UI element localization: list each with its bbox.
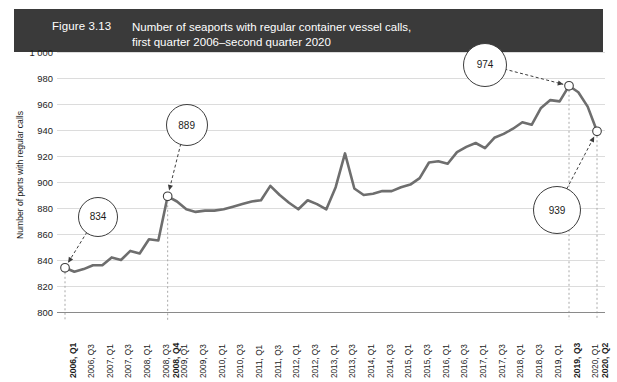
y-tick-label: 980 [9,73,53,84]
y-tick-label: 800 [9,307,53,318]
figure-title-line-2: first quarter 2006–second quarter 2020 [132,35,411,50]
figure-title-line-1: Number of seaports with regular containe… [132,21,411,33]
x-tick-label: 2020, Q2 [600,343,610,378]
annotation-arrow-head [68,257,73,263]
data-point-marker [593,127,602,136]
data-point-marker [565,82,574,91]
y-tick-label: 820 [9,281,53,292]
annotation-callout: 939 [533,186,581,234]
x-tick-label: 2015, Q3 [423,344,432,378]
x-tick-label: 2012, Q3 [311,344,320,378]
gridlines-and-series: 834889974939 [57,52,605,312]
annotation-leader-line [504,69,563,84]
x-tick-label: 2011, Q3 [274,345,283,378]
x-tick-label: 2016, Q3 [460,344,469,378]
x-tick-label: 2006, Q1 [68,343,78,378]
x-tick-label: 2017, Q3 [498,344,507,378]
x-tick-label: 2013, Q3 [348,344,357,378]
x-tick-label: 2017, Q1 [479,344,488,378]
x-tick-label: 2018, Q3 [535,344,544,378]
x-tick-label: 2012, Q1 [292,344,301,378]
x-tick-label: 2014, Q1 [367,344,376,378]
data-point-marker [61,264,70,273]
y-tick-label: 940 [9,125,53,136]
x-tick-label: 2009, Q3 [199,344,208,378]
x-tick-label: 2020, Q1 [591,344,600,378]
annotation-arrow-head [589,137,594,143]
y-tick-label: 860 [9,229,53,240]
annotation-leader-line [567,137,595,189]
annotation-callout: 834 [78,197,118,237]
x-tick-label: 2019, Q3 [572,343,582,378]
x-tick-label: 2008, Q1 [143,344,152,378]
y-tick-label: 960 [9,99,53,110]
y-tick-label: 1 000 [9,47,53,58]
y-tick-label: 840 [9,255,53,266]
x-axis-tick-labels: 2006, Q12006, Q32007, Q12007, Q32008, Q1… [57,314,605,382]
x-tick-label: 2006, Q3 [87,344,96,378]
figure-header-bar: Figure 3.13 Number of seaports with regu… [14,9,603,52]
x-tick-label: 2011, Q1 [255,345,264,378]
x-tick-label: 2008, Q3 [162,344,171,378]
x-tick-label: 2018, Q1 [516,344,525,378]
figure-title: Number of seaports with regular containe… [132,20,411,50]
annotation-arrow-head [557,80,563,85]
annotation-callout: 889 [166,104,208,146]
y-tick-label: 900 [9,177,53,188]
x-tick-label: 2007, Q3 [124,344,133,378]
x-tick-label: 2016, Q1 [442,344,451,378]
x-axis-rule [57,312,605,313]
x-tick-label: 2010, Q3 [236,344,245,378]
x-tick-label: 2019, Q1 [554,344,563,378]
x-tick-label: 2015, Q1 [404,344,413,378]
annotation-leader-line [169,144,181,191]
y-tick-label: 920 [9,151,53,162]
series-line [65,86,597,272]
x-tick-label: 2013, Q1 [330,344,339,378]
annotation-callout: 974 [463,43,507,87]
x-tick-label: 2014, Q3 [386,344,395,378]
figure-number: Figure 3.13 [52,20,111,32]
x-tick-label: 2010, Q1 [218,344,227,378]
chart-plot-area: Number of ports with regular calls 1 000… [0,52,617,375]
annotation-arrow-head [168,185,173,191]
y-axis-tick-labels: 1 000980960940920900880860840820800 [0,52,53,312]
data-point-marker [163,192,172,201]
x-tick-label: 2009, Q1 [180,344,189,378]
line-series [57,52,605,312]
x-tick-label: 2007, Q1 [106,344,115,378]
y-tick-label: 880 [9,203,53,214]
